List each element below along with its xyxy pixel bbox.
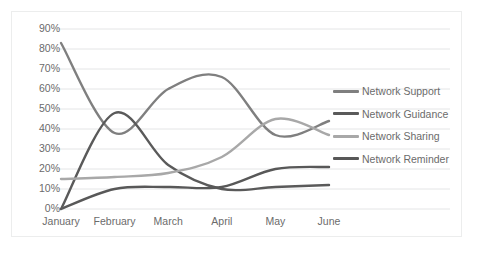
legend-item-label: Network Reminder bbox=[362, 153, 449, 165]
legend-item[interactable]: Network Reminder bbox=[333, 148, 479, 171]
x-axis-tick-label: March bbox=[154, 215, 183, 227]
legend-color-swatch-icon bbox=[333, 112, 359, 115]
legend-item-label: Network Guidance bbox=[362, 108, 448, 120]
line-chart-figure: 0%10%20%30%40%50%60%70%80%90% JanuaryFeb… bbox=[0, 0, 485, 253]
legend-item[interactable]: Network Sharing bbox=[333, 125, 479, 148]
legend-item[interactable]: Network Guidance bbox=[333, 103, 479, 126]
legend-item[interactable]: Network Support bbox=[333, 80, 479, 103]
legend-color-swatch-icon bbox=[333, 90, 359, 93]
legend-item-label: Network Support bbox=[362, 85, 440, 97]
x-axis-tick-label: June bbox=[318, 215, 341, 227]
chart-legend: Network SupportNetwork GuidanceNetwork S… bbox=[333, 80, 479, 170]
legend-color-swatch-icon bbox=[333, 135, 359, 138]
x-axis-tick-label: February bbox=[94, 215, 136, 227]
x-axis-tick-label: January bbox=[42, 215, 79, 227]
legend-item-label: Network Sharing bbox=[362, 130, 440, 142]
x-axis-tick-label: May bbox=[265, 215, 285, 227]
x-axis-tick-label: April bbox=[211, 215, 232, 227]
legend-color-swatch-icon bbox=[333, 157, 359, 160]
